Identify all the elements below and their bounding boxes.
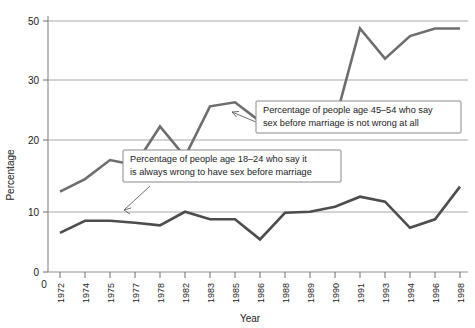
x-tick-label-1985: 1985 [231,283,241,303]
line-chart: 50 30 20 10 0 0 Percentage 1972197419751… [0,0,475,328]
annotation-18-24-line1: Percentage of people age 18–24 who say i… [130,154,307,164]
y-tick-label-20: 20 [28,135,40,146]
x-tick-label-1986: 1986 [256,283,266,303]
leader-arrow-18-24 [124,186,150,210]
y-tick-label-50: 50 [28,16,40,27]
x-tick-label-1998: 1998 [456,283,466,303]
series-line-age-18-24 [60,187,460,240]
y-tick-label-10: 10 [28,207,40,218]
x-tick-label-1993: 1993 [381,283,391,303]
x-tick-label-1990: 1990 [331,283,341,303]
x-tick-label-1972: 1972 [56,283,66,303]
x-tick-label-1978: 1978 [156,283,166,303]
annotation-45-54-line1: Percentage of people age 45–54 who say [263,105,433,115]
chart-container: 50 30 20 10 0 0 Percentage 1972197419751… [0,0,475,328]
annotation-45-54-line2: sex before marriage is not wrong at all [263,118,419,128]
x-tick-label-1977: 1977 [131,283,141,303]
x-tickmarks [60,272,460,278]
y-tick-label-0: 0 [33,267,39,278]
x-tick-label-1974: 1974 [81,283,91,303]
x-tick-label-1988: 1988 [281,283,291,303]
annotation-18-24: Percentage of people age 18–24 who say i… [123,150,341,182]
x-origin-label: 0 [41,279,47,290]
x-tick-label-1975: 1975 [106,283,116,303]
annotation-45-54: Percentage of people age 45–54 who say s… [256,101,461,133]
x-tick-label-1989: 1989 [306,283,316,303]
annotation-18-24-line2: is always wrong to have sex before marri… [130,167,312,177]
x-tick-labels: 1972197419751977197819821983198519861988… [56,283,466,303]
x-tick-label-1982: 1982 [181,283,191,303]
x-tick-label-1996: 1996 [431,283,441,303]
x-tick-label-1983: 1983 [206,283,216,303]
y-tickmarks [43,21,48,272]
x-tick-label-1991: 1991 [356,283,366,303]
y-tick-label-30: 30 [28,75,40,86]
x-tick-label-1994: 1994 [406,283,416,303]
y-tick-labels: 50 30 20 10 0 0 [28,16,47,290]
x-axis-title: Year [240,313,261,324]
y-axis-title: Percentage [5,149,16,201]
